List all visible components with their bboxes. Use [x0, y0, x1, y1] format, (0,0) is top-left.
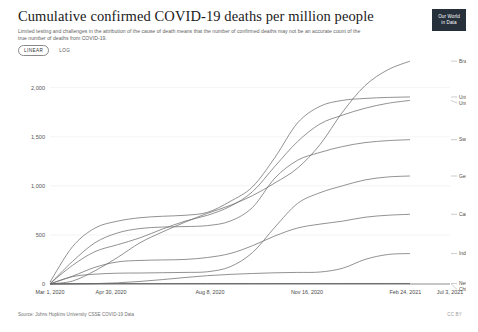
- x-axis-ticks: Mar 1, 2020Apr 30, 2020Aug 8, 2020Nov 16…: [36, 289, 464, 295]
- series-label-sweden[interactable]: Sweden: [459, 137, 466, 142]
- series-label-united-kingdom[interactable]: United Kingdom: [459, 95, 466, 100]
- scale-toggle-group[interactable]: LINEAR LOG: [18, 45, 76, 56]
- gridlines: [50, 88, 450, 235]
- y-tick-label: 2,000: [31, 85, 45, 91]
- x-tick-label: Feb 24, 2021: [389, 289, 421, 295]
- source-note: Source: Johns Hopkins University CSSE CO…: [18, 312, 134, 317]
- x-tick-label: Nov 16, 2020: [291, 289, 323, 295]
- series-label-germany[interactable]: Germany: [459, 174, 466, 179]
- y-tick-label: 0: [42, 281, 45, 287]
- scale-toggle-linear[interactable]: LINEAR: [18, 45, 49, 56]
- owid-logo-line2: in Data: [432, 20, 466, 26]
- x-tick-label: Mar 1, 2020: [36, 289, 65, 295]
- series-line: [50, 140, 410, 284]
- series-label-canada[interactable]: Canada: [459, 212, 466, 217]
- x-tick-label: Aug 8, 2020: [195, 289, 224, 295]
- y-axis-ticks: 05001,0001,5002,000: [31, 85, 45, 287]
- series-line: [50, 100, 410, 283]
- series-line: [50, 97, 410, 282]
- series-label-india[interactable]: India: [459, 251, 466, 256]
- y-tick-label: 500: [36, 232, 45, 238]
- series-line: [50, 176, 410, 284]
- chart-header: Cumulative confirmed COVID-19 deaths per…: [18, 8, 418, 43]
- y-tick-label: 1,000: [31, 183, 45, 189]
- series-label-china[interactable]: China: [459, 287, 466, 292]
- series-label-new-zealand[interactable]: New Zealand: [459, 281, 466, 286]
- license-note: CC BY: [447, 312, 462, 317]
- chart-card: Cumulative confirmed COVID-19 deaths per…: [12, 6, 466, 326]
- series-label-united-states[interactable]: United States: [459, 101, 466, 106]
- chart-plot-area[interactable]: 05001,0001,5002,000 Mar 1, 2020Apr 30, 2…: [12, 58, 466, 306]
- page-title: Cumulative confirmed COVID-19 deaths per…: [18, 8, 418, 25]
- chart-subtitle: Limited testing and challenges in the at…: [18, 28, 370, 43]
- series-label-brazil[interactable]: Brazil: [459, 59, 466, 64]
- series-lines: [50, 61, 410, 284]
- x-tick-label: Apr 30, 2020: [96, 289, 127, 295]
- owid-logo[interactable]: Our World in Data: [432, 9, 466, 31]
- series-line: [50, 61, 410, 284]
- series-line: [50, 254, 410, 284]
- y-tick-label: 1,500: [31, 134, 45, 140]
- series-label-connector: [451, 100, 457, 103]
- chart-svg: 05001,0001,5002,000 Mar 1, 2020Apr 30, 2…: [12, 58, 466, 306]
- scale-toggle-log[interactable]: LOG: [53, 45, 76, 56]
- chart-footer: Source: Johns Hopkins University CSSE CO…: [18, 312, 462, 317]
- series-labels: BrazilUnited KingdomUnited StatesSwedenG…: [451, 59, 466, 292]
